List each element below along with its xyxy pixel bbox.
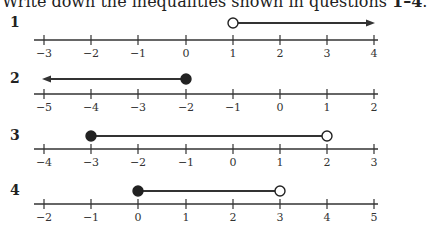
tick-label: 0: [277, 101, 284, 114]
number-line-question-3: 3−4−3−2−10123: [10, 127, 378, 169]
tick-label: −1: [225, 101, 241, 114]
number-line-question-1: 1−3−2−101234: [10, 14, 378, 60]
closed-endpoint-dot: [133, 186, 143, 196]
tick-label: 3: [324, 47, 331, 60]
tick-label: −1: [83, 211, 99, 224]
number-line-question-4: 4−2−1012345: [10, 182, 378, 224]
open-endpoint-circle: [228, 18, 238, 28]
tick-label: 1: [230, 47, 237, 60]
arrow-head-icon: [366, 20, 375, 27]
tick-label: 1: [183, 211, 190, 224]
tick-label: −4: [83, 101, 99, 114]
tick-label: −4: [36, 156, 52, 169]
tick-label: −3: [36, 47, 52, 60]
tick-label: −1: [178, 156, 194, 169]
heading-question-range: 1–4: [392, 0, 422, 11]
tick-label: 1: [277, 156, 284, 169]
heading-period: .: [422, 0, 427, 11]
tick-label: 3: [371, 156, 378, 169]
closed-endpoint-dot: [181, 74, 191, 84]
tick-label: 1: [324, 101, 331, 114]
open-endpoint-circle: [322, 131, 332, 141]
tick-label: 2: [324, 156, 331, 169]
tick-label: −5: [36, 101, 52, 114]
tick-label: 0: [230, 156, 237, 169]
tick-label: −2: [83, 47, 99, 60]
tick-label: 2: [230, 211, 237, 224]
question-number: 1: [10, 14, 20, 30]
arrow-head-icon: [42, 76, 51, 83]
question-number: 2: [10, 70, 20, 86]
tick-label: 4: [371, 47, 378, 60]
open-endpoint-circle: [275, 186, 285, 196]
tick-label: −2: [178, 101, 194, 114]
tick-label: −2: [130, 156, 146, 169]
tick-label: −2: [36, 211, 52, 224]
tick-label: 2: [371, 101, 378, 114]
tick-label: 3: [277, 211, 284, 224]
question-number: 3: [10, 127, 20, 143]
tick-label: 2: [277, 47, 284, 60]
tick-label: 0: [183, 47, 190, 60]
number-line-question-2: 2−5−4−3−2−1012: [10, 70, 378, 114]
tick-label: 4: [324, 211, 331, 224]
tick-label: −1: [130, 47, 146, 60]
tick-label: 0: [135, 211, 142, 224]
tick-label: 5: [371, 211, 378, 224]
closed-endpoint-dot: [86, 131, 96, 141]
tick-label: −3: [83, 156, 99, 169]
question-number: 4: [10, 182, 20, 198]
tick-label: −3: [130, 101, 146, 114]
